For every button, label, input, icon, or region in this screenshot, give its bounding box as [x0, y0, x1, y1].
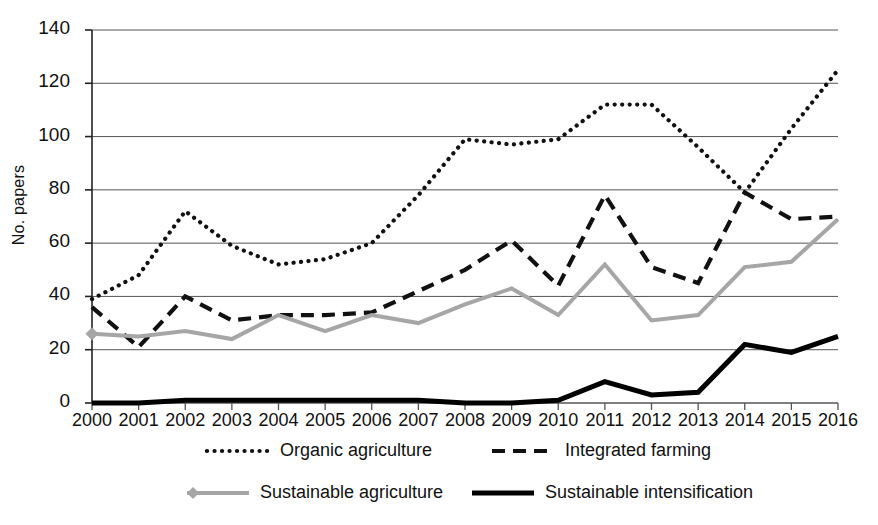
chart-legend: Organic agricultureIntegrated farmingSus… — [0, 436, 878, 525]
series-line-0 — [92, 70, 838, 299]
legend-label: Sustainable intensification — [545, 482, 753, 503]
gray-marker-line-key — [185, 484, 251, 502]
legend-item[interactable]: Sustainable intensification — [470, 482, 753, 503]
dotted-line-key — [205, 442, 271, 460]
series-marker-diamond — [86, 328, 98, 340]
legend-key-marker — [187, 487, 199, 499]
legend-item[interactable]: Integrated farming — [490, 440, 711, 461]
series-line-3 — [92, 336, 838, 403]
legend-label: Organic agriculture — [280, 440, 432, 461]
dashed-line-key — [490, 442, 556, 460]
chart-container: No. papers 020406080100120140 2000200120… — [0, 0, 878, 525]
legend-label: Integrated farming — [565, 440, 711, 461]
thick-solid-line-key — [470, 484, 536, 502]
series-line-1 — [92, 193, 838, 348]
series-line-2 — [92, 219, 838, 339]
legend-item[interactable]: Sustainable agriculture — [185, 482, 443, 503]
legend-item[interactable]: Organic agriculture — [205, 440, 432, 461]
legend-label: Sustainable agriculture — [260, 482, 443, 503]
